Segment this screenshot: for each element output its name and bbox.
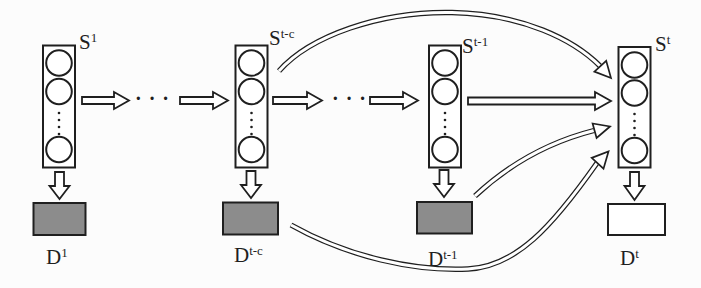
st1-unit-circle bbox=[432, 79, 458, 105]
emission-arrow-st-to-dt-icon bbox=[625, 172, 645, 200]
st-unit-circle bbox=[622, 80, 648, 106]
transition-arrow-s1-right-icon bbox=[82, 92, 129, 109]
stc-label: St-c bbox=[269, 26, 295, 50]
transition-arrow-st1-to-st-icon bbox=[468, 92, 611, 110]
s1-unit-circle bbox=[46, 50, 72, 76]
transition-ellipsis-2: · · · bbox=[332, 87, 367, 109]
emission-arrow-s1-to-d1-icon bbox=[50, 172, 70, 199]
stc-unit-circle bbox=[239, 137, 265, 163]
st-unit-circle bbox=[622, 138, 648, 164]
st1-unit-circle bbox=[432, 50, 458, 76]
st-label: St bbox=[655, 32, 671, 56]
skip-arrow-dt1-to-st-head-icon bbox=[593, 124, 610, 138]
emission-arrow-st1-to-dt1-icon bbox=[434, 170, 454, 197]
st1-unit-circle bbox=[432, 137, 458, 163]
s1-unit-circle bbox=[46, 79, 72, 105]
emission-arrow-stc-to-dtc-icon bbox=[241, 171, 261, 198]
data-node-dt1 bbox=[417, 202, 472, 234]
figure-page: · · · · · · S1 St-c bbox=[0, 0, 701, 288]
temporal-model-diagram: · · · · · · S1 St-c bbox=[0, 0, 701, 288]
st1-label: St-1 bbox=[462, 34, 488, 58]
state-node-st1 bbox=[429, 46, 461, 168]
stc-unit-circle bbox=[239, 79, 265, 105]
transition-ellipsis-1: · · · bbox=[135, 87, 170, 109]
data-node-dtc bbox=[223, 203, 278, 235]
skip-arrow-dt1-to-st-outline bbox=[475, 131, 594, 197]
st-unit-circle bbox=[622, 52, 648, 78]
dtc-label: Dt-c bbox=[234, 243, 263, 267]
stc-unit-circle bbox=[239, 50, 265, 76]
dt-label: Dt bbox=[620, 246, 639, 270]
state-node-st bbox=[619, 47, 651, 168]
skip-arrow-dt1-to-st bbox=[475, 124, 610, 197]
skip-arrow-dt1-to-st-inner bbox=[475, 131, 594, 197]
s1-unit-circle bbox=[46, 137, 72, 163]
d1-label: D1 bbox=[46, 245, 68, 269]
s1-label: S1 bbox=[79, 30, 97, 54]
data-node-d1 bbox=[34, 203, 86, 235]
transition-arrow-into-st1-icon bbox=[370, 92, 418, 109]
data-node-dt bbox=[608, 204, 665, 235]
state-node-s1 bbox=[43, 46, 75, 168]
transition-arrow-into-stc-icon bbox=[180, 92, 228, 109]
state-node-stc bbox=[236, 46, 268, 168]
transition-arrow-stc-right-icon bbox=[273, 92, 322, 109]
